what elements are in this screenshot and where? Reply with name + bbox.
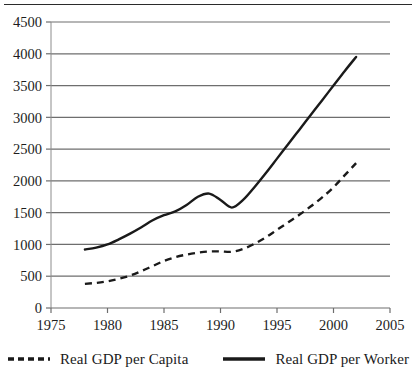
- legend-label-real-gdp-per-capita: Real GDP per Capita: [60, 352, 188, 367]
- legend-item-real-gdp-per-capita: Real GDP per Capita: [7, 352, 188, 367]
- legend-item-real-gdp-per-worker: Real GDP per Worker: [222, 352, 409, 367]
- chart-legend: Real GDP per Capita Real GDP per Worker: [0, 340, 416, 378]
- x-axis-label-1990: 1990: [206, 317, 235, 333]
- y-axis-label-1500: 1500: [13, 205, 42, 221]
- legend-swatch-solid-icon: [222, 354, 266, 364]
- x-axis-label-1985: 1985: [150, 317, 179, 333]
- x-tick-labels-group: 1975198019851990199520002005: [37, 317, 405, 333]
- x-axis-ticks-group: [51, 308, 390, 313]
- x-axis-label-1980: 1980: [93, 317, 122, 333]
- gridlines-group: [51, 22, 390, 276]
- y-axis-label-4500: 4500: [13, 14, 42, 30]
- y-axis-label-2500: 2500: [13, 141, 42, 157]
- y-axis-label-1000: 1000: [13, 237, 42, 253]
- legend-swatch-dashed-icon: [7, 354, 51, 364]
- x-axis-label-1995: 1995: [263, 317, 292, 333]
- y-tick-labels-group: 050010001500200025003000350040004500: [13, 14, 42, 316]
- y-axis-label-3500: 3500: [13, 78, 42, 94]
- y-axis-label-500: 500: [20, 268, 42, 284]
- x-axis-label-1975: 1975: [37, 317, 66, 333]
- plot-area: 050010001500200025003000350040004500 197…: [0, 0, 416, 340]
- y-axis-label-4000: 4000: [13, 46, 42, 62]
- line-chart-svg: 050010001500200025003000350040004500 197…: [0, 0, 416, 340]
- y-axis-ticks-group: [46, 22, 51, 308]
- y-axis-label-2000: 2000: [13, 173, 42, 189]
- figure-container: 050010001500200025003000350040004500 197…: [0, 0, 416, 378]
- x-axis-label-2005: 2005: [376, 317, 405, 333]
- y-axis-label-0: 0: [35, 300, 42, 316]
- x-axis-label-2000: 2000: [319, 317, 348, 333]
- y-axis-label-3000: 3000: [13, 110, 42, 126]
- legend-label-real-gdp-per-worker: Real GDP per Worker: [275, 352, 409, 367]
